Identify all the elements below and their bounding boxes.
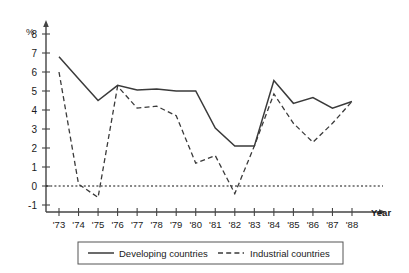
y-tick-label: 4 (31, 105, 37, 116)
x-tick-label: '76 (111, 219, 123, 230)
y-tick-label: 6 (31, 67, 37, 78)
series-line-industrial-countries (59, 72, 352, 197)
x-tick-label: '78 (150, 219, 162, 230)
x-tick-label: '80 (190, 219, 202, 230)
legend-label-developing-countries: Developing countries (119, 248, 208, 259)
x-tick-label: '82 (229, 219, 241, 230)
x-tick-label: '84 (268, 219, 280, 230)
x-tick-label: '73 (53, 219, 65, 230)
legend: Developing countries Industrial countrie… (78, 242, 343, 264)
x-tick-label: '87 (326, 219, 338, 230)
x-axis-group: '73'74'75'76'77'78'79'80'81'82'83'84'85'… (46, 208, 386, 230)
x-tick-label: '88 (346, 219, 358, 230)
y-tick-label: 5 (31, 86, 37, 97)
x-tick-label: '83 (248, 219, 260, 230)
y-axis-unit-label: % (26, 26, 35, 37)
y-tick-label: 7 (31, 48, 37, 59)
x-tick-labels: '73'74'75'76'77'78'79'80'81'82'83'84'85'… (53, 219, 358, 230)
x-tick-label: '77 (131, 219, 143, 230)
y-tick-label: -1 (28, 200, 37, 211)
line-chart: 876543210-1 % '73'74'75'76'77'78'79'80'8… (0, 0, 409, 273)
series-line-developing-countries (59, 57, 352, 146)
y-axis-group: 876543210-1 (28, 20, 50, 212)
y-tick-label: 2 (31, 143, 37, 154)
x-axis-name-label: Year (371, 207, 391, 218)
y-tick-label: 0 (31, 181, 37, 192)
x-tick-label: '79 (170, 219, 182, 230)
x-tick-label: '86 (307, 219, 319, 230)
x-tick-label: '74 (72, 219, 84, 230)
y-tick-labels: 876543210-1 (28, 29, 37, 211)
y-tick-label: 1 (31, 162, 37, 173)
x-tick-label: '75 (92, 219, 104, 230)
y-tick-label: 3 (31, 124, 37, 135)
legend-label-industrial-countries: Industrial countries (250, 248, 330, 259)
chart-container: 876543210-1 % '73'74'75'76'77'78'79'80'8… (0, 0, 409, 273)
x-tick-label: '85 (287, 219, 299, 230)
y-axis-arrow-icon (43, 20, 49, 27)
x-tick-label: '81 (209, 219, 221, 230)
